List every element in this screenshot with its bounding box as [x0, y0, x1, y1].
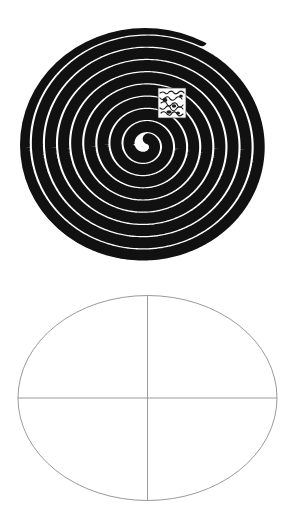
- ellipse-svg: ellipse-with-axes: [0, 272, 296, 530]
- spiral-svg: hypnotic-spiral: [0, 0, 296, 272]
- spiral-figure-panel: hypnotic-spiral: [0, 0, 296, 272]
- ellipse-figure-panel: ellipse-with-axes: [0, 272, 296, 530]
- scribble-patch: [158, 88, 186, 118]
- figure-page: hypnotic-spiral illegible handwritten sc…: [0, 0, 296, 530]
